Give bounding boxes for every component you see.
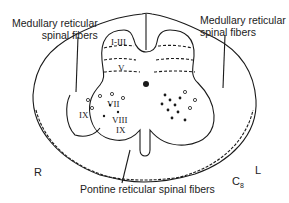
label-line-2: spinal fibers bbox=[12, 29, 98, 41]
label-line-1: Medullary reticular bbox=[12, 17, 98, 29]
side-label-right: R bbox=[34, 166, 42, 178]
label-pontine-reticular: Pontine reticular spinal fibers bbox=[80, 183, 215, 195]
label-medullary-reticular-right: Medullary reticular spinal fibers bbox=[200, 14, 286, 38]
lamina-ix-medial: IX bbox=[116, 125, 126, 135]
lamina-ix-lateral: IX bbox=[79, 110, 89, 120]
label-line-2: spinal fibers bbox=[200, 26, 286, 38]
segment-letter: C bbox=[232, 175, 240, 187]
gray-matter bbox=[89, 30, 214, 156]
label-line-1: Medullary reticular bbox=[200, 14, 286, 26]
lamina-i-iii: I-III bbox=[111, 37, 126, 47]
label-medullary-reticular-left: Medullary reticular spinal fibers bbox=[12, 17, 98, 41]
lamina-viii: VIII bbox=[112, 115, 128, 125]
segment-label: C8 bbox=[232, 175, 244, 192]
lamina-vii: VII bbox=[107, 99, 120, 109]
side-label-left: L bbox=[255, 164, 261, 176]
lamina-v: V bbox=[118, 63, 125, 73]
segment-number: 8 bbox=[240, 182, 244, 189]
